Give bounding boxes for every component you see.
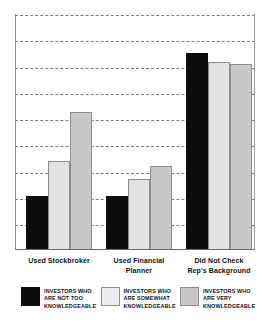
chart-legend: INVESTORS WHO ARE NOT TOO KNOWLEDGEABLE … <box>21 287 256 315</box>
legend-label-line: ARE VERY <box>203 295 232 301</box>
legend-label-not-too: INVESTORS WHO ARE NOT TOO KNOWLEDGEABLE <box>44 287 96 310</box>
grouped-bar-chart: Used StockbrokerUsed FinancialPlannerDid… <box>0 0 271 327</box>
x-axis-label: Did Not CheckRep's Background <box>172 256 266 275</box>
legend-swatch-very-icon <box>180 287 199 306</box>
legend-label-line: INVESTORS WHO <box>44 288 92 294</box>
x-axis-label-line: Did Not Check <box>194 257 243 264</box>
x-axis-label-line: Planner <box>126 267 152 274</box>
legend-label-line: KNOWLEDGEABLE <box>203 303 255 309</box>
legend-swatch-not-too-icon <box>21 287 40 306</box>
legend-swatch-somewhat-icon <box>101 287 120 306</box>
legend-item: INVESTORS WHO ARE SOMEWHAT KNOWLEDGEABLE <box>101 287 177 315</box>
legend-item: INVESTORS WHO ARE NOT TOO KNOWLEDGEABLE <box>21 287 97 315</box>
x-axis-label-line: Rep's Background <box>187 267 250 274</box>
x-axis-category-labels: Used StockbrokerUsed FinancialPlannerDid… <box>15 256 255 280</box>
legend-label-line: ARE SOMEWHAT <box>124 295 170 301</box>
plot-area <box>15 14 255 250</box>
x-axis-label-line: Used Financial <box>114 257 165 264</box>
legend-label-line: ARE NOT TOO <box>44 295 83 301</box>
legend-label-very: INVESTORS WHO ARE VERY KNOWLEDGEABLE <box>203 287 255 310</box>
legend-label-line: INVESTORS WHO <box>124 288 172 294</box>
legend-label-line: KNOWLEDGEABLE <box>44 303 96 309</box>
legend-label-somewhat: INVESTORS WHO ARE SOMEWHAT KNOWLEDGEABLE <box>124 287 176 310</box>
legend-item: INVESTORS WHO ARE VERY KNOWLEDGEABLE <box>180 287 256 315</box>
legend-label-line: INVESTORS WHO <box>203 288 251 294</box>
legend-label-line: KNOWLEDGEABLE <box>124 303 176 309</box>
x-axis-label-line: Used Stockbroker <box>28 257 90 264</box>
plot-frame <box>15 14 255 250</box>
